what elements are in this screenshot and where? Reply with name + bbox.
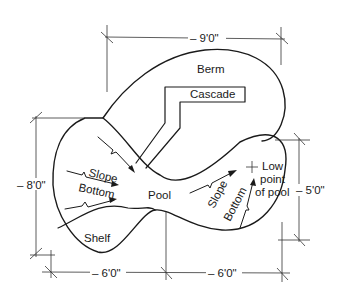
label-pool: Pool: [148, 189, 171, 201]
pool-plan-diagram: Berm Cascade Pool Shelf Slope Bottom Slo…: [0, 0, 342, 299]
dimension-lines: [30, 25, 310, 282]
label-berm: Berm: [197, 63, 224, 75]
dim-top-width: – 9'0": [190, 32, 219, 44]
low-point-marker: [246, 161, 258, 173]
dim-right-height: – 5'0": [296, 184, 325, 196]
label-slope-left: Slope: [88, 166, 119, 185]
label-cascade: Cascade: [190, 88, 235, 100]
dim-bottom-left-width: – 6'0": [92, 267, 121, 279]
shelf-line: [58, 206, 155, 228]
label-shelf: Shelf: [84, 232, 111, 244]
label-low: Low: [262, 160, 284, 172]
label-point: point: [260, 173, 286, 185]
dim-left-height: – 8'0": [17, 179, 46, 191]
label-of-pool: of pool: [255, 186, 290, 198]
dim-bottom-right-width: – 6'0": [208, 267, 237, 279]
label-slope-right: Slope: [205, 178, 229, 210]
label-bottom-left: Bottom: [78, 181, 116, 200]
